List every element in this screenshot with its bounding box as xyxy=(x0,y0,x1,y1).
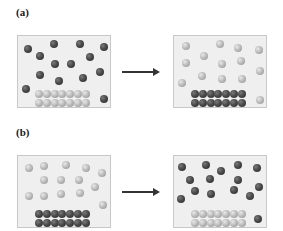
solid-sphere xyxy=(82,219,90,227)
gas-sphere xyxy=(79,74,87,82)
solid-sphere xyxy=(58,90,66,98)
gas-sphere xyxy=(177,195,185,203)
solid-sphere xyxy=(238,99,246,107)
gas-sphere xyxy=(182,42,190,50)
solid-sphere xyxy=(191,99,199,107)
solid-sphere xyxy=(191,90,199,98)
gas-sphere xyxy=(186,176,194,184)
gas-sphere xyxy=(246,192,254,200)
gas-sphere xyxy=(40,192,48,200)
gas-sphere xyxy=(57,176,65,184)
solid-sphere xyxy=(43,99,51,107)
solid-sphere xyxy=(199,210,207,218)
solid-sphere xyxy=(238,219,246,227)
gas-sphere xyxy=(40,176,48,184)
panel-a-after-box xyxy=(173,35,267,108)
solid-sphere xyxy=(230,219,238,227)
gas-sphere xyxy=(238,75,246,83)
gas-sphere xyxy=(200,52,208,60)
solid-sphere xyxy=(58,219,66,227)
solid-sphere xyxy=(35,99,43,107)
solid-sphere xyxy=(222,210,230,218)
gas-sphere xyxy=(98,169,106,177)
solid-sphere xyxy=(58,99,66,107)
solid-sphere xyxy=(230,90,238,98)
solid-sphere xyxy=(35,210,43,218)
gas-sphere xyxy=(36,71,44,79)
solid-sphere xyxy=(238,90,246,98)
solid-sphere xyxy=(66,219,74,227)
solid-sphere xyxy=(207,90,215,98)
solid-sphere xyxy=(74,210,82,218)
gas-sphere xyxy=(234,161,242,169)
panel-a-label: (a) xyxy=(16,6,29,18)
gas-sphere xyxy=(234,176,242,184)
solid-sphere xyxy=(191,210,199,218)
solid-sphere xyxy=(199,99,207,107)
solid-sphere xyxy=(214,219,222,227)
gas-sphere xyxy=(218,60,226,68)
gas-sphere xyxy=(191,187,199,195)
solid-sphere xyxy=(43,219,51,227)
solid-sphere xyxy=(222,219,230,227)
solid-sphere xyxy=(199,219,207,227)
reaction-arrow-icon xyxy=(122,68,160,76)
solid-sphere xyxy=(51,210,59,218)
solid-sphere xyxy=(207,219,215,227)
gas-sphere xyxy=(178,79,186,87)
gas-sphere xyxy=(50,40,58,48)
gas-sphere xyxy=(25,164,33,172)
gas-sphere xyxy=(76,189,84,197)
gas-sphere xyxy=(256,96,264,104)
gas-sphere xyxy=(255,46,263,54)
gas-sphere xyxy=(254,215,262,223)
gas-sphere xyxy=(96,68,104,76)
panel-b-before-box xyxy=(17,155,111,228)
solid-sphere xyxy=(230,210,238,218)
gas-sphere xyxy=(67,60,75,68)
gas-sphere xyxy=(182,59,190,67)
gas-sphere xyxy=(237,57,245,65)
solid-sphere xyxy=(82,99,90,107)
solid-sphere xyxy=(74,90,82,98)
gas-sphere xyxy=(206,175,214,183)
gas-sphere xyxy=(40,162,48,170)
solid-sphere xyxy=(66,210,74,218)
gas-sphere xyxy=(76,40,84,48)
panel-b-label: (b) xyxy=(16,126,29,138)
solid-sphere xyxy=(199,90,207,98)
panel-a-before-box xyxy=(17,35,111,108)
solid-sphere xyxy=(51,90,59,98)
solid-sphere xyxy=(222,99,230,107)
gas-sphere xyxy=(55,77,63,85)
gas-sphere xyxy=(22,85,30,93)
arrow-head xyxy=(153,188,160,196)
gas-sphere xyxy=(24,45,32,53)
solid-sphere xyxy=(74,99,82,107)
gas-sphere xyxy=(91,183,99,191)
solid-sphere xyxy=(66,90,74,98)
gas-sphere xyxy=(100,43,108,51)
gas-sphere xyxy=(82,164,90,172)
gas-sphere xyxy=(230,186,238,194)
gas-sphere xyxy=(86,53,94,61)
gas-sphere xyxy=(256,67,264,75)
gas-sphere xyxy=(207,190,215,198)
arrow-shaft xyxy=(122,71,154,73)
reaction-arrow-icon xyxy=(122,188,160,196)
gas-sphere xyxy=(178,163,186,171)
gas-sphere xyxy=(75,176,83,184)
solid-sphere xyxy=(214,90,222,98)
solid-sphere xyxy=(207,210,215,218)
solid-sphere xyxy=(82,90,90,98)
gas-sphere xyxy=(57,190,65,198)
gas-sphere xyxy=(99,201,107,209)
gas-sphere xyxy=(218,75,226,83)
solid-sphere xyxy=(191,219,199,227)
solid-sphere xyxy=(214,210,222,218)
gas-sphere xyxy=(255,183,263,191)
solid-sphere xyxy=(230,99,238,107)
solid-sphere xyxy=(43,90,51,98)
solid-sphere xyxy=(207,99,215,107)
gas-sphere xyxy=(62,161,70,169)
